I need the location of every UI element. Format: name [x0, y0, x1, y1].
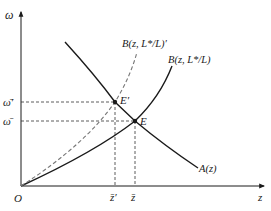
curve-b-prime — [21, 52, 137, 186]
tick-z-bar-prime: z̄′ — [109, 191, 117, 203]
origin-label: O — [14, 192, 22, 204]
equilibrium-diagram: ω z O ω̄′ ω̄ z̄′ z̄ E E′ A(z) B(z, L*/L)… — [0, 0, 271, 211]
curve-b-prime-label: B(z, L*/L)′ — [122, 38, 168, 50]
tick-omega-bar: ω̄ — [3, 115, 14, 127]
curve-b-label: B(z, L*/L) — [168, 54, 211, 66]
point-e-prime — [113, 100, 117, 104]
point-e-prime-label: E′ — [119, 94, 130, 106]
point-e-label: E — [139, 115, 147, 127]
curve-a-label: A(z) — [198, 163, 217, 175]
tick-z-bar: z̄ — [130, 191, 136, 203]
y-axis-label: ω — [5, 8, 13, 22]
x-axis-label: z — [257, 191, 263, 203]
point-e — [133, 119, 137, 123]
curve-b — [21, 66, 172, 186]
tick-omega-bar-prime: ω̄′ — [3, 96, 14, 108]
